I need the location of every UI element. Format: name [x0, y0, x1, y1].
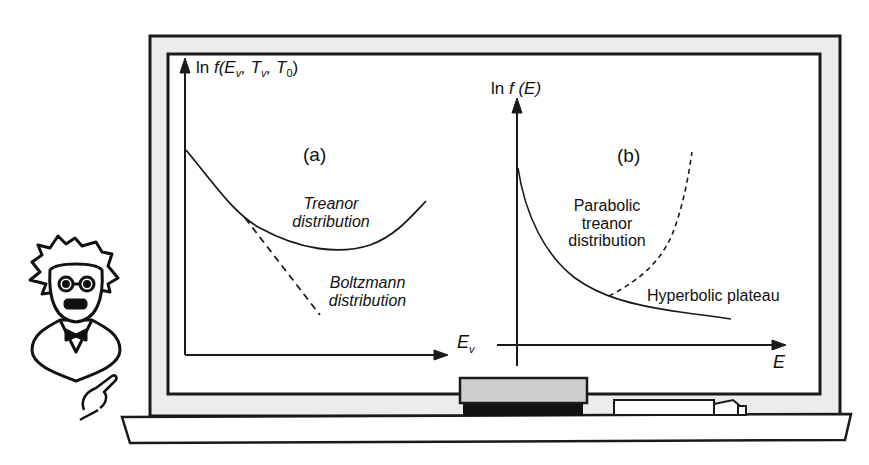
blackboard-illustration: [0, 0, 869, 465]
chalk-icon: [614, 400, 746, 415]
treanor-label-line2: distribution: [286, 213, 376, 231]
panel-a-y-axis-label: ln f(Ev, Tv, T0): [196, 59, 298, 79]
parabolic-label-line2: treanor: [557, 215, 657, 233]
x-axis-letter: E: [457, 332, 469, 352]
boltzmann-label: Boltzmann distribution: [320, 274, 415, 309]
parabolic-label-line3: distribution: [557, 232, 657, 250]
parabolic-treanor-label: Parabolic treanor distribution: [557, 197, 657, 250]
y-axis-prefix: ln: [196, 58, 214, 77]
y-axis-sep: , T: [241, 58, 261, 77]
parabolic-label-line1: Parabolic: [557, 197, 657, 215]
x-axis-sub: v: [469, 343, 475, 355]
panel-b-y-axis-label: ln f (E): [491, 80, 541, 99]
professor-icon: [30, 236, 120, 420]
y-axis-close: ): [293, 58, 299, 77]
treanor-label: Treanor distribution: [286, 195, 376, 230]
y-axis-prefix: ln: [491, 79, 509, 98]
board-surface: [168, 54, 820, 394]
eraser-icon: [460, 378, 587, 416]
boltzmann-label-line2: distribution: [320, 292, 415, 310]
y-axis-args: (E: [219, 58, 236, 77]
panel-a-x-axis-label: Ev: [457, 333, 475, 355]
panel-b-tag: (b): [617, 146, 640, 167]
y-axis-sep: , T: [267, 58, 287, 77]
y-axis-args: (E): [514, 79, 541, 98]
board-ledge: [122, 414, 851, 443]
hyperbolic-plateau-label: Hyperbolic plateau: [647, 287, 780, 305]
boltzmann-label-line1: Boltzmann: [320, 274, 415, 292]
treanor-label-line1: Treanor: [286, 195, 376, 213]
panel-b-x-axis-label: E: [773, 353, 785, 373]
panel-a-tag: (a): [303, 145, 326, 166]
